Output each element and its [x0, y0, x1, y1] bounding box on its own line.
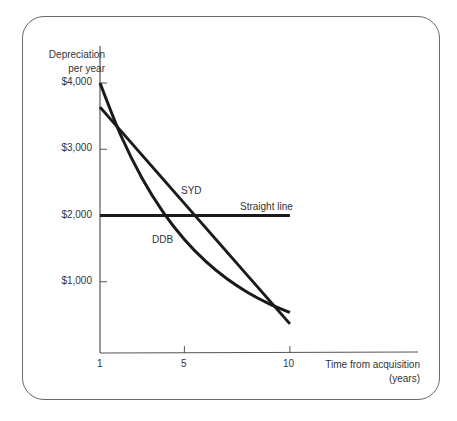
syd-label: SYD — [181, 185, 202, 196]
y-axis-label: Depreciation per year — [40, 48, 105, 76]
y-tick-2000: $2,000 — [40, 209, 92, 220]
x-axis-label-line1: Time from acquisition — [300, 358, 420, 372]
straight-line-label: Straight line — [240, 201, 293, 212]
series-ddb — [100, 83, 290, 312]
x-tick-1: 1 — [97, 358, 103, 369]
x-axis — [100, 352, 418, 353]
x-tick-10: 10 — [283, 358, 294, 369]
x-axis-label: Time from acquisition (years) — [300, 358, 420, 386]
y-axis-label-line2: per year — [40, 62, 105, 76]
y-axis-label-line1: Depreciation — [40, 48, 105, 62]
ddb-label: DDB — [152, 234, 173, 245]
y-tick-4000: $4,000 — [40, 76, 92, 87]
x-axis-label-line2: (years) — [300, 372, 420, 386]
y-tick-1000: $1,000 — [40, 275, 92, 286]
chart-axes — [100, 46, 418, 353]
y-tick-3000: $3,000 — [40, 142, 92, 153]
x-tick-5: 5 — [181, 358, 187, 369]
